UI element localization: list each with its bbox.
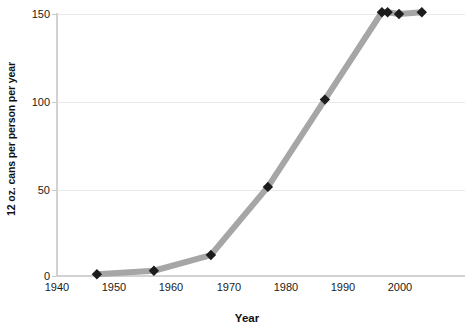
chart-container: 12 oz. cans per person per year 150 100 … xyxy=(0,0,472,335)
data-series-layer xyxy=(0,0,472,335)
data-point-marker xyxy=(92,269,102,279)
data-point-marker xyxy=(382,7,392,17)
series-markers xyxy=(92,7,427,279)
data-point-marker xyxy=(394,9,404,19)
data-point-marker xyxy=(417,7,427,17)
series-line xyxy=(97,12,422,274)
